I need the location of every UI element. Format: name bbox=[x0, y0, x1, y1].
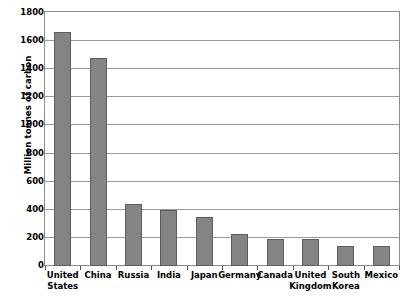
bar bbox=[125, 204, 142, 266]
y-tick-label: 600 bbox=[4, 176, 44, 185]
bars-layer bbox=[45, 12, 399, 266]
y-tick-label: 200 bbox=[4, 233, 44, 242]
bar bbox=[373, 246, 390, 266]
bar bbox=[160, 210, 177, 266]
bar bbox=[337, 246, 354, 266]
x-axis-labels: United StatesChinaRussiaIndiaJapanGerman… bbox=[45, 270, 399, 300]
y-tick-label: 0 bbox=[4, 261, 44, 270]
bar bbox=[196, 217, 213, 266]
bar bbox=[231, 234, 248, 266]
y-axis: 020040060080010001200140016001800 bbox=[0, 11, 44, 266]
bar bbox=[54, 32, 71, 266]
bar bbox=[90, 58, 107, 266]
y-tick-label: 800 bbox=[4, 148, 44, 157]
y-tick-label: 1600 bbox=[4, 36, 44, 45]
bar bbox=[267, 239, 284, 266]
bar bbox=[302, 239, 319, 266]
y-tick-label: 1200 bbox=[4, 92, 44, 101]
bar-chart: Million tonnes of carbon 020040060080010… bbox=[0, 0, 408, 300]
x-tick-label: Mexico bbox=[360, 270, 403, 281]
y-tick-label: 1400 bbox=[4, 64, 44, 73]
y-tick-label: 1000 bbox=[4, 120, 44, 129]
y-tick-label: 400 bbox=[4, 205, 44, 214]
y-tick-label: 1800 bbox=[4, 8, 44, 17]
